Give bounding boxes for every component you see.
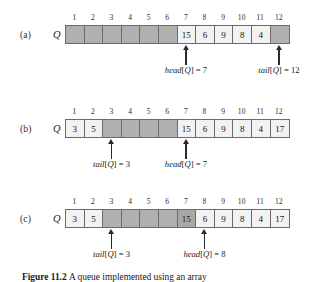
array-slot[interactable]: 4 <box>252 120 271 137</box>
pointer-label-head: head[Q] = 8 <box>183 249 225 259</box>
pointer-value: 7 <box>203 159 207 169</box>
array-slot[interactable]: 6 <box>196 120 215 137</box>
array-slot[interactable] <box>122 120 141 137</box>
index-label: 5 <box>139 13 158 22</box>
index-label: 1 <box>65 197 84 206</box>
index-label: 7 <box>177 13 196 22</box>
pointer-value: 12 <box>291 65 300 75</box>
array-slot[interactable] <box>159 120 178 137</box>
array-slot[interactable]: 9 <box>215 26 234 43</box>
index-label: 8 <box>195 13 214 22</box>
figure-caption: Figure 11.2 A queue implemented using an… <box>22 272 312 282</box>
array-slot[interactable]: 6 <box>196 26 215 43</box>
figure-container: (a)Q123456789101112156984head[Q] = 7tail… <box>0 0 320 282</box>
index-label: 1 <box>65 107 84 116</box>
array-slot[interactable]: 8 <box>233 26 252 43</box>
array-slot[interactable] <box>159 210 178 227</box>
index-label: 11 <box>251 197 270 206</box>
array-slot[interactable]: 5 <box>85 120 104 137</box>
index-label: 6 <box>158 107 177 116</box>
array-slot[interactable]: 8 <box>233 120 252 137</box>
pointer-value: 7 <box>203 65 207 75</box>
array: 3515698417 <box>65 119 290 138</box>
index-label: 10 <box>232 197 251 206</box>
pointer-name: head <box>183 249 200 259</box>
equals-sign: = <box>194 159 203 169</box>
caption-text: A queue implemented using an array <box>69 272 207 282</box>
index-row: 123456789101112 <box>65 13 288 22</box>
index-label: 7 <box>177 197 196 206</box>
pointer-arrow-head <box>200 229 209 249</box>
panel-letter: (b) <box>20 124 32 134</box>
pointer-label-head: head[Q] = 7 <box>165 65 207 75</box>
array-slot[interactable] <box>140 120 159 137</box>
index-label: 11 <box>251 107 270 116</box>
index-label: 2 <box>84 13 103 22</box>
equals-sign: = <box>282 65 291 75</box>
pointer-label-tail: tail[Q] = 3 <box>93 249 130 259</box>
array: 156984 <box>65 25 290 44</box>
array-slot[interactable]: 6 <box>196 210 215 227</box>
index-label: 10 <box>232 107 251 116</box>
index-label: 3 <box>102 107 121 116</box>
panel-letter: (a) <box>20 30 31 40</box>
array-slot[interactable] <box>103 120 122 137</box>
array-slot[interactable]: 17 <box>271 120 290 137</box>
index-label: 11 <box>251 13 270 22</box>
index-label: 8 <box>195 107 214 116</box>
pointer-label-head: head[Q] = 7 <box>165 159 207 169</box>
index-label: 3 <box>102 197 121 206</box>
index-label: 1 <box>65 13 84 22</box>
array-slot[interactable] <box>122 26 141 43</box>
index-label: 9 <box>214 13 233 22</box>
array-slot[interactable]: 15 <box>178 120 197 137</box>
equals-sign: = <box>212 249 221 259</box>
array-slot[interactable]: 17 <box>271 210 290 227</box>
pointer-arrow-head <box>181 45 190 65</box>
pointer-value: 3 <box>126 159 130 169</box>
pointer-value: 8 <box>221 249 225 259</box>
array-slot[interactable]: 3 <box>66 210 85 227</box>
pointer-label-tail: tail[Q] = 12 <box>258 65 299 75</box>
array-slot[interactable]: 9 <box>215 210 234 227</box>
pointer-label-tail: tail[Q] = 3 <box>93 159 130 169</box>
array-slot[interactable]: 5 <box>85 210 104 227</box>
index-label: 4 <box>121 107 140 116</box>
array-variable-label: Q <box>53 213 61 224</box>
index-label: 12 <box>270 13 289 22</box>
equals-sign: = <box>194 65 203 75</box>
index-label: 2 <box>84 197 103 206</box>
array-variable-label: Q <box>53 123 61 134</box>
index-row: 123456789101112 <box>65 197 288 206</box>
index-label: 4 <box>121 13 140 22</box>
array-slot[interactable] <box>103 210 122 227</box>
array-slot[interactable]: 15 <box>178 26 197 43</box>
array-variable-label: Q <box>53 29 61 40</box>
array-slot[interactable] <box>85 26 104 43</box>
panel-letter: (c) <box>20 214 31 224</box>
pointer-arrow-tail <box>107 229 116 249</box>
array-slot[interactable]: 8 <box>233 210 252 227</box>
array-slot[interactable]: 4 <box>252 26 271 43</box>
array-slot[interactable]: 15 <box>178 210 197 227</box>
array-slot[interactable]: 9 <box>215 120 234 137</box>
array-slot[interactable] <box>159 26 178 43</box>
array-slot[interactable] <box>140 210 159 227</box>
array-slot[interactable] <box>140 26 159 43</box>
index-label: 3 <box>102 13 121 22</box>
pointer-name: tail <box>93 159 104 169</box>
array-slot[interactable]: 4 <box>252 210 271 227</box>
pointer-value: 3 <box>126 249 130 259</box>
array-slot[interactable]: 3 <box>66 120 85 137</box>
index-label: 2 <box>84 107 103 116</box>
index-label: 7 <box>177 107 196 116</box>
index-label: 9 <box>214 107 233 116</box>
array-slot[interactable] <box>271 26 290 43</box>
array-slot[interactable] <box>103 26 122 43</box>
pointer-name: tail <box>93 249 104 259</box>
array-slot[interactable] <box>66 26 85 43</box>
pointer-arrow-head <box>181 139 190 159</box>
array-slot[interactable] <box>122 210 141 227</box>
index-label: 12 <box>270 197 289 206</box>
index-label: 5 <box>139 197 158 206</box>
